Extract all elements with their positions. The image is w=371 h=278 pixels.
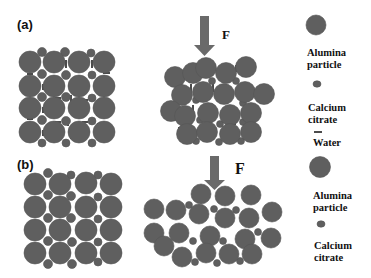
calcium-citrate-icon xyxy=(317,221,325,227)
legend-a-citrate-label: Calcium citrate xyxy=(308,102,346,126)
calcium-citrate-icon xyxy=(313,81,321,87)
grid-b-compressed xyxy=(144,184,282,267)
grid-b-ordered xyxy=(24,169,122,269)
grid-a-compressed xyxy=(161,57,275,146)
legend-b-citrate-label: Calcium citrate xyxy=(314,240,352,264)
force-arrow-b xyxy=(204,156,225,190)
force-arrow-a xyxy=(194,16,215,56)
grid-a-ordered xyxy=(19,48,115,148)
legend-a-alumina-label: Alumina particle xyxy=(307,47,346,71)
alumina-particle-icon xyxy=(310,157,331,178)
force-label-a: F xyxy=(222,27,230,43)
legend-a-water-label: Water xyxy=(313,137,341,149)
alumina-particle-icon xyxy=(306,15,326,35)
force-label-b: F xyxy=(235,160,245,178)
legend-b-alumina-label: Alumina particle xyxy=(313,190,352,214)
